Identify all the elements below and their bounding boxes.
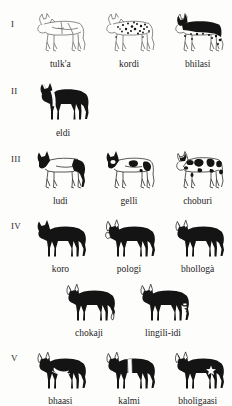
animal-cell: tulk'a — [26, 6, 95, 70]
cow-figure-koro — [26, 211, 94, 263]
cow-figure-bholloga — [164, 211, 232, 263]
animal-label: gelli — [121, 197, 138, 207]
animal-cell: lingili-idi — [126, 275, 200, 339]
animal-label: bhilasi — [185, 60, 210, 70]
group-numeral-5: V — [11, 354, 18, 363]
animal-cell: choburi — [163, 143, 232, 207]
animal-label: ludi — [53, 197, 68, 207]
animal-label: pologi — [117, 265, 141, 275]
cow-figure-eldi — [29, 75, 97, 127]
cow-figure-tulka — [26, 6, 94, 58]
animal-label: chokaji — [75, 329, 103, 339]
animal-cell: gelli — [95, 143, 164, 207]
group-numeral-4: IV — [11, 222, 21, 231]
animal-cell: chokaji — [52, 275, 126, 339]
cow-figure-chokaji — [55, 275, 123, 327]
group-numeral-1: I — [11, 20, 14, 29]
animal-cell: bhaasi — [26, 343, 95, 406]
cow-figure-choburi — [164, 143, 232, 195]
animal-label: kalmi — [118, 397, 140, 406]
cow-figure-lingili-idi — [129, 275, 197, 327]
animal-cell: bholigaasi — [163, 343, 232, 406]
animal-label: bhollogà — [181, 265, 214, 275]
animal-label: tulk'a — [50, 60, 71, 70]
group-numeral-2: II — [11, 87, 18, 96]
figure-row: IV koro pologi — [0, 211, 232, 275]
animal-label: choburi — [183, 197, 212, 207]
cow-figure-bholigaasi — [164, 343, 232, 395]
cow-figure-kalmi — [95, 343, 163, 395]
animal-label: eldi — [56, 129, 70, 139]
figure-row: chokaji lingili-idi — [0, 275, 232, 339]
cow-figure-kordi — [95, 6, 163, 58]
cow-figure-gelli — [95, 143, 163, 195]
animal-label: bholigaasi — [178, 397, 217, 406]
animal-cell: bhollogà — [163, 211, 232, 275]
animal-cell: kalmi — [95, 343, 164, 406]
animal-label: lingili-idi — [145, 329, 181, 339]
figure-row: I — [0, 6, 232, 70]
figure-row: III ludi — [0, 143, 232, 207]
animal-cell: koro — [26, 211, 95, 275]
cattle-pattern-figure: I — [0, 6, 232, 402]
figure-row: V bhaasi — [0, 343, 232, 406]
animal-label: koro — [52, 265, 69, 275]
figure-row: II eldi — [0, 75, 232, 139]
animal-label: kordi — [119, 60, 139, 70]
group-numeral-3: III — [11, 155, 21, 164]
cow-figure-pologi — [95, 211, 163, 263]
cow-figure-ludi — [26, 143, 94, 195]
animal-cell: eldi — [26, 75, 100, 139]
animal-label: bhaasi — [48, 397, 72, 406]
animal-cell: bhilasi — [163, 6, 232, 70]
cow-figure-bhilasi — [164, 6, 232, 58]
animal-cell: kordi — [95, 6, 164, 70]
cow-figure-bhaasi — [26, 343, 94, 395]
animal-cell: pologi — [95, 211, 164, 275]
animal-cell: ludi — [26, 143, 95, 207]
